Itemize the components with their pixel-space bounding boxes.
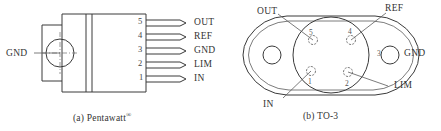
package-outline-drawings — [0, 0, 441, 131]
to3-out-leader-line — [278, 14, 313, 40]
pentawatt-pin-number-1: 1 — [139, 72, 143, 82]
to3-pin-label-in: IN — [263, 99, 274, 109]
to3-case-circle — [293, 17, 369, 93]
to3-lim-leader-line — [348, 72, 388, 86]
pentawatt-pin-label-out: OUT — [194, 17, 214, 27]
pentawatt-caption: (a) Pentawatt® — [73, 111, 132, 123]
to3-pin-label-gnd: GND — [404, 48, 425, 58]
to3-pin-label-ref: REF — [385, 3, 403, 13]
to3-mounting-hole-left — [263, 46, 281, 64]
pentawatt-lead-5 — [146, 20, 186, 26]
to3-caption-label: TO-3 — [317, 111, 338, 121]
pentawatt-lead-1 — [146, 76, 186, 82]
pentawatt-pin-label-gnd: GND — [194, 45, 215, 55]
pentawatt-caption-label: Pentawatt — [87, 113, 126, 123]
pentawatt-lead-2 — [146, 62, 186, 68]
to3-pin-number-1: 1 — [308, 77, 312, 86]
registered-trademark-icon: ® — [126, 111, 132, 119]
to3-pin-label-out: OUT — [257, 6, 277, 16]
to3-pin-number-4: 4 — [348, 27, 352, 36]
to3-pin-number-3: 3 — [377, 49, 381, 58]
pentawatt-pin-number-4: 4 — [138, 30, 142, 40]
to3-caption-prefix: (b) — [303, 111, 315, 121]
pentawatt-drawing — [34, 14, 186, 92]
pentawatt-pin-label-in: IN — [194, 73, 205, 83]
pentawatt-pin-label-ref: REF — [194, 31, 212, 41]
to3-drawing — [243, 13, 419, 98]
pentawatt-tab-label-gnd: GND — [6, 48, 27, 58]
pentawatt-pin-number-2: 2 — [138, 58, 142, 68]
to3-caption: (b) TO-3 — [303, 111, 338, 121]
to3-pin-number-5: 5 — [309, 28, 313, 37]
pentawatt-lead-4 — [146, 34, 186, 40]
to3-mounting-hole-right — [381, 46, 399, 64]
pentawatt-lead-3 — [146, 48, 186, 54]
to3-pin-label-lim: LIM — [394, 80, 412, 90]
figure-container: GND 5 4 3 2 1 OUT REF GND LIM IN (a) Pen… — [0, 0, 441, 131]
to3-pin-number-2: 2 — [345, 79, 349, 88]
pentawatt-pin-number-5: 5 — [138, 16, 142, 26]
pentawatt-caption-prefix: (a) — [73, 113, 84, 123]
pentawatt-pin-label-lim: LIM — [194, 59, 212, 69]
pentawatt-pin-number-3: 3 — [138, 44, 142, 54]
